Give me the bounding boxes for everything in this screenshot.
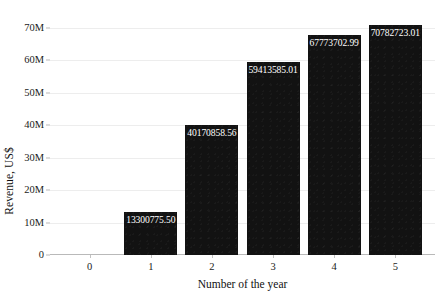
x-axis-title: Number of the year xyxy=(50,278,435,290)
x-tick-mark xyxy=(90,255,91,258)
y-tick-label: 0 xyxy=(39,250,44,261)
y-tick-label: 70M xyxy=(24,22,44,33)
bar: 40170858.56 xyxy=(185,125,238,255)
x-tick-label: 1 xyxy=(148,262,153,273)
x-tick-label: 4 xyxy=(332,262,337,273)
x-tick-mark xyxy=(395,255,396,258)
x-tick-label: 3 xyxy=(270,262,275,273)
x-tick-mark xyxy=(273,255,274,258)
y-axis-title-text: Revenue, US$ xyxy=(3,147,15,215)
bar-value-label: 40170858.56 xyxy=(185,128,238,138)
bar: 59413585.01 xyxy=(247,62,300,255)
x-tick-mark xyxy=(334,255,335,258)
y-axis-title: Revenue, US$ xyxy=(0,18,18,302)
y-tick-mark xyxy=(46,255,50,256)
bar-value-label: 13300775.50 xyxy=(124,215,177,225)
bar-value-label: 70782723.01 xyxy=(369,28,422,38)
x-tick-label: 5 xyxy=(393,262,398,273)
y-tick-mark xyxy=(46,190,50,191)
bar-value-label: 67773702.99 xyxy=(308,38,361,48)
y-tick-mark xyxy=(46,92,50,93)
x-tick-mark xyxy=(212,255,213,258)
x-tick-label: 0 xyxy=(87,262,92,273)
bar-value-label: 59413585.01 xyxy=(247,65,300,75)
y-tick-mark xyxy=(46,222,50,223)
plot-area: 010M20M30M40M50M60M70M01234513300775.504… xyxy=(50,18,435,255)
x-tick-label: 2 xyxy=(209,262,214,273)
bar: 70782723.01 xyxy=(369,25,422,255)
y-tick-mark xyxy=(46,60,50,61)
y-tick-label: 30M xyxy=(24,152,44,163)
y-tick-mark xyxy=(46,27,50,28)
y-tick-label: 40M xyxy=(24,120,44,131)
y-tick-label: 60M xyxy=(24,55,44,66)
y-tick-mark xyxy=(46,157,50,158)
bar: 13300775.50 xyxy=(124,212,177,255)
bar: 67773702.99 xyxy=(308,35,361,255)
y-tick-mark xyxy=(46,125,50,126)
y-tick-label: 20M xyxy=(24,185,44,196)
bar-chart-figure: Revenue, US$ 010M20M30M40M50M60M70M01234… xyxy=(0,0,444,302)
y-tick-label: 10M xyxy=(24,217,44,228)
y-tick-label: 50M xyxy=(24,87,44,98)
x-tick-mark xyxy=(151,255,152,258)
